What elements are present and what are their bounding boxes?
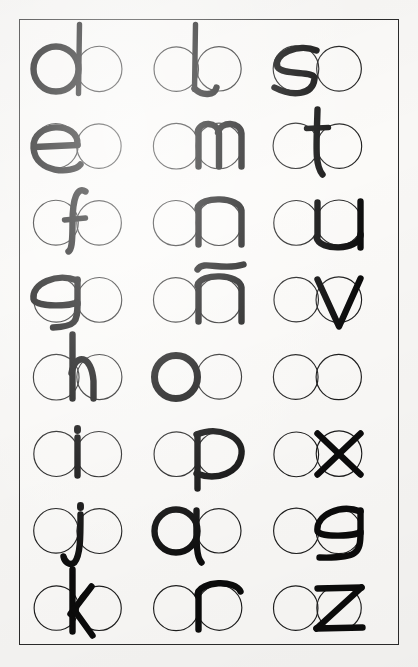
letter-cell-j: j xyxy=(26,500,144,562)
guide-circle-left xyxy=(34,431,79,476)
guide-circle-right xyxy=(197,585,242,630)
letter-cell-w: w xyxy=(266,346,384,408)
letter-cell-n: n xyxy=(146,192,264,254)
ink-stroke xyxy=(64,515,81,564)
letter-glyph-y: y xyxy=(266,500,384,562)
guide-circle-right xyxy=(77,46,122,91)
letter-glyph-b: b xyxy=(146,38,264,100)
letter-cell-m: m xyxy=(146,115,264,177)
guide-circle-right xyxy=(77,201,122,246)
letter-cell-u: u xyxy=(266,192,384,254)
guide-circle-left xyxy=(153,278,198,323)
letter-cell-o: o xyxy=(146,346,264,408)
letter-glyph-ñ: ñ xyxy=(146,269,264,331)
guide-circle-left xyxy=(273,586,317,630)
ink-stroke xyxy=(198,583,241,594)
ink-stroke xyxy=(65,218,86,220)
page-canvas: dbsemtfnugñvhowipxjqykrz xyxy=(0,0,418,667)
guide-circle-right xyxy=(197,278,242,323)
guide-circle-right xyxy=(196,200,241,245)
ink-stroke xyxy=(307,128,329,129)
letter-cell-z: z xyxy=(266,577,384,639)
guide-circle-right xyxy=(77,124,121,168)
letter-cell-v: v xyxy=(266,269,384,331)
letter-glyph-n: n xyxy=(146,192,264,254)
guide-circle-left xyxy=(34,509,79,554)
letter-cell-d: d xyxy=(26,38,144,100)
letter-cell-q: q xyxy=(146,500,264,562)
letter-cell-i: i xyxy=(26,423,144,485)
guide-circle-right xyxy=(76,432,121,477)
letter-glyph-v: v xyxy=(266,269,384,331)
ink-stroke xyxy=(35,145,78,147)
guide-circle-left xyxy=(154,47,198,91)
guide-circle-left xyxy=(154,586,199,631)
letter-glyph-u: u xyxy=(266,192,384,254)
guide-circle-right xyxy=(316,354,361,399)
letter-cell-f: f xyxy=(26,192,144,254)
guide-circle-left xyxy=(154,432,199,477)
letter-glyph-o: o xyxy=(146,346,264,408)
letter-cell-h: h xyxy=(26,346,144,408)
guide-circle-left xyxy=(274,432,319,477)
guide-circle-left xyxy=(153,200,198,245)
ink-stroke xyxy=(317,110,323,175)
letter-glyph-s: s xyxy=(266,38,384,100)
letter-cell-b: b xyxy=(146,38,264,100)
ink-stroke xyxy=(317,509,360,536)
guide-circle-right xyxy=(77,278,122,323)
guide-circle-left xyxy=(274,508,319,553)
guide-circle-right xyxy=(197,509,241,553)
guide-circle-right xyxy=(317,46,362,91)
letter-glyph-h: h xyxy=(26,346,144,408)
letter-cell-p: p xyxy=(146,423,264,485)
letter-grid: dbsemtfnugñvhowipxjqykrz xyxy=(20,20,400,646)
ink-stroke xyxy=(318,588,362,589)
guide-circle-left xyxy=(274,200,319,245)
letter-glyph-w: w xyxy=(266,346,384,408)
letter-cell-k: k xyxy=(26,577,144,639)
chart-frame: dbsemtfnugñvhowipxjqykrz xyxy=(19,19,399,645)
guide-circle-right xyxy=(197,354,242,399)
ink-stroke xyxy=(155,356,198,399)
ink-stroke xyxy=(79,25,80,94)
letter-glyph-p: p xyxy=(146,423,264,485)
ink-stroke xyxy=(317,588,362,629)
letter-cell-x: x xyxy=(266,423,384,485)
letter-glyph-d: d xyxy=(26,38,144,100)
ink-stroke xyxy=(198,265,244,270)
letter-cell-r: r xyxy=(146,577,264,639)
letter-cell-s: s xyxy=(266,38,384,100)
letter-cell-ñ: ñ xyxy=(146,269,264,331)
guide-circle-left xyxy=(153,123,199,169)
letter-glyph-e: e xyxy=(26,115,144,177)
letter-glyph-z: z xyxy=(266,577,384,639)
letter-cell-y: y xyxy=(266,500,384,562)
letter-cell-g: g xyxy=(26,269,144,331)
guide-circle-left xyxy=(273,355,318,400)
letter-glyph-g: g xyxy=(26,269,144,331)
guide-circle-right xyxy=(317,124,362,169)
letter-glyph-r: r xyxy=(146,577,264,639)
letter-glyph-j: j xyxy=(26,500,144,562)
letter-glyph-t: t xyxy=(266,115,384,177)
guide-circle-right xyxy=(316,200,361,245)
letter-cell-t: t xyxy=(266,115,384,177)
guide-circle-left xyxy=(274,277,319,322)
guide-circle-right xyxy=(197,47,241,91)
ink-stroke xyxy=(34,47,79,92)
letter-glyph-x: x xyxy=(266,423,384,485)
letter-glyph-q: q xyxy=(146,500,264,562)
letter-glyph-m: m xyxy=(146,115,264,177)
ink-stroke xyxy=(195,25,196,90)
ink-stroke xyxy=(74,609,93,636)
ink-stroke xyxy=(318,279,361,327)
letter-cell-e: e xyxy=(26,115,144,177)
ink-stroke xyxy=(155,510,198,553)
ink-stroke xyxy=(317,202,361,248)
letter-glyph-i: i xyxy=(26,423,144,485)
ink-stroke xyxy=(317,628,363,629)
letter-glyph-k: k xyxy=(26,577,144,639)
ink-stroke xyxy=(195,88,217,95)
letter-glyph-f: f xyxy=(26,192,144,254)
